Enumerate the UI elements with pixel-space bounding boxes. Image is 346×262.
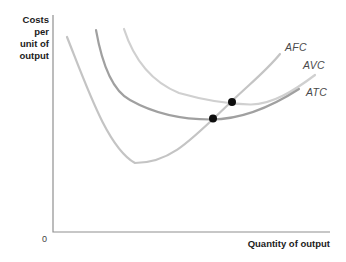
curve-label-afc: AFC bbox=[285, 41, 307, 53]
intersection-dot-right bbox=[228, 98, 236, 106]
cost-curves-figure: Costs per unit of output AFC AVC ATC 0 Q… bbox=[0, 0, 346, 262]
x-axis-label: Quantity of output bbox=[248, 238, 330, 249]
curve-label-avc: AVC bbox=[303, 59, 325, 71]
origin-label: 0 bbox=[42, 234, 47, 244]
curve-afc bbox=[67, 37, 280, 163]
curve-atc bbox=[96, 30, 299, 120]
plot-area bbox=[0, 0, 346, 262]
curve-label-atc: ATC bbox=[306, 86, 327, 98]
intersection-dot-left bbox=[209, 115, 217, 123]
